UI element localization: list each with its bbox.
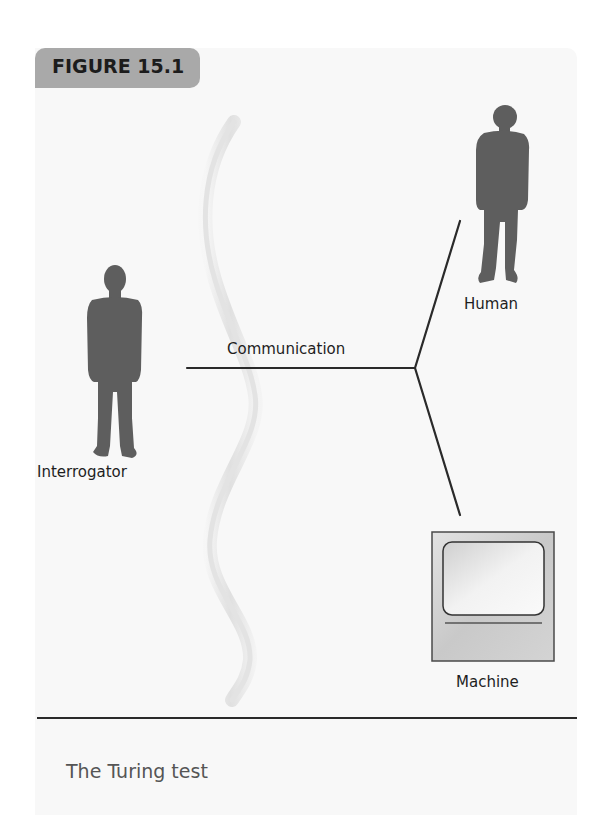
communication-line-machine: [415, 368, 460, 515]
machine-monitor-icon: [432, 532, 554, 661]
turing-test-diagram: [0, 0, 609, 819]
human-label: Human: [464, 295, 518, 313]
figure-caption: The Turing test: [66, 760, 208, 782]
communication-line-human: [415, 221, 460, 368]
wavy-wall-separator: [205, 122, 255, 700]
figure-page: FIGURE 15.1: [0, 0, 609, 819]
interrogator-silhouette-icon: [87, 265, 142, 458]
human-silhouette-icon: [476, 105, 529, 283]
interrogator-label: Interrogator: [37, 463, 127, 481]
machine-label: Machine: [456, 673, 519, 691]
caption-divider: [37, 717, 577, 719]
communication-label: Communication: [227, 340, 345, 358]
